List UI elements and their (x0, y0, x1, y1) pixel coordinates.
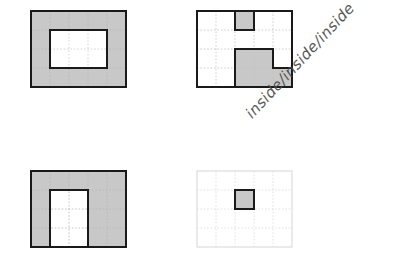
shaded-top-notch (235, 11, 254, 30)
figure-bottom-right (196, 170, 293, 248)
worksheet-canvas: inside/inside/inside (0, 0, 410, 255)
figure-bottom-left (30, 170, 127, 248)
figure-top-left (30, 10, 127, 88)
single-shaded-cell (235, 190, 254, 209)
